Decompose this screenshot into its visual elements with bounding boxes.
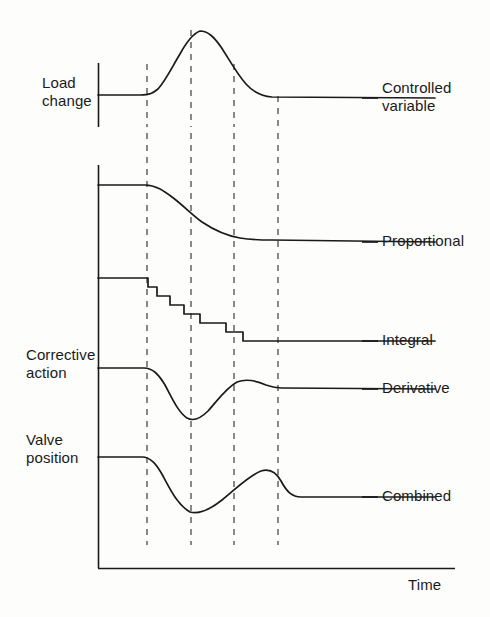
label-integral: Integral — [382, 331, 433, 349]
label-proportional: Proportional — [382, 232, 464, 250]
label-corrective-action: Corrective action — [26, 346, 95, 382]
label-valve-position: Valve position — [26, 431, 79, 467]
label-combined: Combined — [382, 487, 451, 505]
label-controlled-variable: Controlled variable — [382, 79, 451, 115]
label-time-axis: Time — [408, 576, 441, 594]
leader-dashes-group — [362, 98, 378, 497]
process-control-response-figure: Load change Corrective action Valve posi… — [0, 0, 490, 617]
label-derivative: Derivative — [382, 379, 450, 397]
label-load-change: Load change — [42, 74, 92, 110]
guide-lines-group — [147, 30, 278, 545]
